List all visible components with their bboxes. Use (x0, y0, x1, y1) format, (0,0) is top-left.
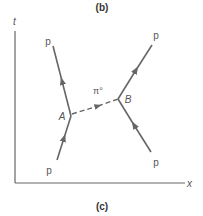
left-proton-worldline: p p (45, 36, 71, 176)
feynman-diagram: (b) (c) t x p p π° p p A B (0, 0, 203, 216)
outgoing-left-proton-label: p (45, 36, 51, 47)
pion-exchange: π° (72, 86, 118, 114)
axes: t x (13, 16, 193, 189)
top-caption: (b) (96, 2, 109, 13)
vertex-a-label: A (58, 111, 66, 122)
time-axis-label: t (13, 16, 17, 27)
bottom-caption: (c) (96, 201, 108, 212)
vertex-b-label: B (125, 94, 132, 105)
incoming-right-proton-label: p (153, 157, 159, 168)
space-axis-label: x (186, 178, 193, 189)
pion-label: π° (93, 86, 103, 96)
outgoing-right-proton-label: p (153, 30, 159, 41)
incoming-left-proton-label: p (46, 165, 52, 176)
